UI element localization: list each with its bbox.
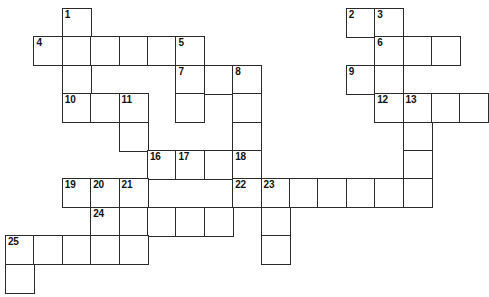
crossword-cell-numbered-11[interactable]: 11 — [119, 93, 149, 123]
cell-number-label: 6 — [377, 37, 382, 49]
crossword-cell[interactable] — [374, 65, 404, 95]
crossword-cell-numbered-22[interactable]: 22 — [232, 178, 262, 208]
crossword-cell[interactable] — [204, 65, 234, 95]
cell-number-label: 8 — [235, 66, 240, 78]
crossword-cell-numbered-24[interactable]: 24 — [90, 207, 120, 237]
crossword-cell-numbered-12[interactable]: 12 — [374, 93, 404, 123]
cell-number-label: 23 — [264, 179, 275, 191]
crossword-cell-numbered-5[interactable]: 5 — [175, 36, 205, 66]
crossword-cell[interactable] — [403, 122, 433, 152]
crossword-cell[interactable] — [175, 93, 205, 123]
cell-number-label: 25 — [8, 236, 19, 248]
crossword-cell-numbered-6[interactable]: 6 — [374, 36, 404, 66]
crossword-cell[interactable] — [5, 264, 35, 294]
crossword-cell-numbered-16[interactable]: 16 — [147, 150, 177, 180]
crossword-cell[interactable] — [175, 207, 205, 237]
crossword-cell[interactable] — [90, 235, 120, 265]
cell-number-label: 12 — [377, 94, 388, 106]
crossword-cell[interactable] — [90, 93, 120, 123]
crossword-cell-numbered-4[interactable]: 4 — [33, 36, 63, 66]
cell-number-label: 11 — [122, 94, 132, 106]
crossword-cell-numbered-21[interactable]: 21 — [119, 178, 149, 208]
cell-number-label: 10 — [65, 94, 76, 106]
crossword-cell-numbered-17[interactable]: 17 — [175, 150, 205, 180]
cell-number-label: 2 — [349, 9, 354, 21]
cell-number-label: 22 — [235, 179, 246, 191]
crossword-cell-numbered-20[interactable]: 20 — [90, 178, 120, 208]
crossword-cell[interactable] — [289, 178, 319, 208]
cell-number-label: 9 — [349, 66, 354, 78]
crossword-cell[interactable] — [374, 178, 404, 208]
cell-number-label: 5 — [178, 37, 183, 49]
crossword-cell-numbered-1[interactable]: 1 — [62, 8, 92, 38]
crossword-cell-numbered-19[interactable]: 19 — [62, 178, 92, 208]
crossword-cell[interactable] — [403, 150, 433, 180]
crossword-cell[interactable] — [232, 93, 262, 123]
crossword-cell[interactable] — [62, 65, 92, 95]
crossword-cell[interactable] — [119, 235, 149, 265]
cell-number-label: 3 — [377, 9, 382, 21]
crossword-cell-numbered-18[interactable]: 18 — [232, 150, 262, 180]
crossword-cell[interactable] — [90, 36, 120, 66]
crossword-cell[interactable] — [204, 150, 234, 180]
crossword-cell-numbered-25[interactable]: 25 — [5, 235, 35, 265]
crossword-cell-numbered-13[interactable]: 13 — [403, 93, 433, 123]
crossword-cell[interactable] — [147, 207, 177, 237]
cell-number-label: 7 — [178, 66, 183, 78]
cell-number-label: 17 — [178, 151, 189, 163]
crossword-cell[interactable] — [119, 36, 149, 66]
crossword-cell[interactable] — [232, 122, 262, 152]
cell-number-label: 18 — [235, 151, 246, 163]
cell-number-label: 4 — [36, 37, 41, 49]
crossword-cell-numbered-10[interactable]: 10 — [62, 93, 92, 123]
crossword-cell[interactable] — [119, 122, 149, 152]
crossword-cell[interactable] — [62, 235, 92, 265]
crossword-cell[interactable] — [403, 36, 433, 66]
cell-number-label: 24 — [93, 208, 104, 220]
crossword-cell[interactable] — [346, 178, 376, 208]
crossword-cell[interactable] — [403, 178, 433, 208]
crossword-cell-numbered-9[interactable]: 9 — [346, 65, 376, 95]
crossword-cell[interactable] — [317, 178, 347, 208]
crossword-cell[interactable] — [204, 207, 234, 237]
crossword-cell[interactable] — [33, 235, 63, 265]
crossword-cell-numbered-2[interactable]: 2 — [346, 8, 376, 38]
cell-number-label: 16 — [150, 151, 161, 163]
crossword-cell[interactable] — [119, 207, 149, 237]
crossword-cell-numbered-7[interactable]: 7 — [175, 65, 205, 95]
crossword-cell-numbered-23[interactable]: 23 — [261, 178, 291, 208]
crossword-cell[interactable] — [62, 36, 92, 66]
crossword-cell[interactable] — [261, 235, 291, 265]
crossword-cell-numbered-8[interactable]: 8 — [232, 65, 262, 95]
cell-number-label: 19 — [65, 179, 76, 191]
crossword-cell[interactable] — [147, 36, 177, 66]
crossword-cell[interactable] — [431, 36, 461, 66]
crossword-cell[interactable] — [431, 93, 461, 123]
crossword-cell[interactable] — [261, 207, 291, 237]
crossword-cell-numbered-3[interactable]: 3 — [374, 8, 404, 38]
crossword-cell[interactable] — [459, 93, 489, 123]
cell-number-label: 21 — [122, 179, 133, 191]
cell-number-label: 13 — [406, 94, 417, 106]
cell-number-label: 1 — [65, 9, 70, 21]
cell-number-label: 20 — [93, 179, 104, 191]
